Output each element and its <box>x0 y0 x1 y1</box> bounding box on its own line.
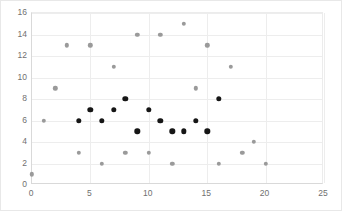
data-point[interactable] <box>111 107 116 112</box>
y-tick-label-6: 6 <box>22 115 27 124</box>
data-point[interactable] <box>147 151 151 155</box>
gridline-h-16 <box>32 13 322 14</box>
gridline-h-2 <box>32 164 322 165</box>
data-point[interactable] <box>158 118 163 123</box>
data-point[interactable] <box>88 43 92 47</box>
data-point[interactable] <box>123 96 128 101</box>
data-point[interactable] <box>88 107 93 112</box>
y-tick-label-8: 8 <box>22 94 27 103</box>
data-point[interactable] <box>217 161 221 165</box>
data-point[interactable] <box>169 129 174 134</box>
data-point[interactable] <box>263 161 267 165</box>
data-point[interactable] <box>158 32 162 36</box>
data-point[interactable] <box>170 161 174 165</box>
y-tick-label-12: 12 <box>18 51 27 60</box>
gridline-v-20 <box>266 13 267 183</box>
gridline-h-14 <box>32 35 322 36</box>
gridline-h-10 <box>32 78 322 79</box>
data-point[interactable] <box>112 65 116 69</box>
y-tick-label-0: 0 <box>22 180 27 189</box>
gridline-v-15 <box>207 13 208 183</box>
x-tick-label-0: 0 <box>29 189 34 198</box>
data-point[interactable] <box>53 86 57 90</box>
gridline-h-8 <box>32 99 322 100</box>
data-point[interactable] <box>204 129 209 134</box>
data-point[interactable] <box>205 43 209 47</box>
x-tick-label-10: 10 <box>143 189 152 198</box>
data-point[interactable] <box>193 86 197 90</box>
data-point[interactable] <box>30 172 34 176</box>
gridline-v-5 <box>90 13 91 183</box>
data-point[interactable] <box>252 140 256 144</box>
y-tick-label-4: 4 <box>22 137 27 146</box>
y-axis-tick-labels: 0246810121416 <box>1 12 27 184</box>
x-tick-label-15: 15 <box>201 189 210 198</box>
y-tick-label-10: 10 <box>18 72 27 81</box>
data-point[interactable] <box>181 129 186 134</box>
data-point[interactable] <box>65 43 69 47</box>
data-point[interactable] <box>228 65 232 69</box>
y-tick-label-2: 2 <box>22 158 27 167</box>
data-point[interactable] <box>99 118 104 123</box>
data-point[interactable] <box>193 118 198 123</box>
data-point[interactable] <box>216 96 221 101</box>
y-tick-label-16: 16 <box>18 8 27 17</box>
data-point[interactable] <box>146 107 151 112</box>
data-point[interactable] <box>77 151 81 155</box>
data-point[interactable] <box>240 151 244 155</box>
x-tick-label-5: 5 <box>87 189 92 198</box>
plot-area <box>31 12 323 184</box>
y-tick-label-14: 14 <box>18 29 27 38</box>
gridline-v-25 <box>324 13 325 183</box>
data-point[interactable] <box>134 129 139 134</box>
gridline-h-4 <box>32 142 322 143</box>
gridline-h-12 <box>32 56 322 57</box>
data-point[interactable] <box>100 161 104 165</box>
data-point[interactable] <box>41 118 45 122</box>
x-tick-label-20: 20 <box>260 189 269 198</box>
scatter-chart: 0246810121416 0510152025 <box>0 0 342 211</box>
data-point[interactable] <box>76 118 81 123</box>
data-point[interactable] <box>182 22 186 26</box>
x-tick-label-25: 25 <box>318 189 327 198</box>
gridline-v-10 <box>149 13 150 183</box>
data-point[interactable] <box>135 32 139 36</box>
data-point[interactable] <box>123 151 127 155</box>
